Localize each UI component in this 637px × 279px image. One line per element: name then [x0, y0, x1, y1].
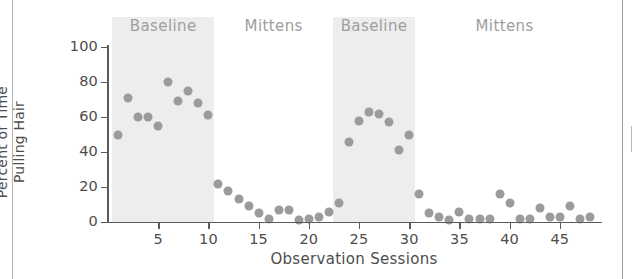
hair-pulling-scatter-chart: 020406080100 51015202530354045 BaselineM… — [0, 0, 637, 279]
y-tick — [101, 47, 108, 48]
data-point — [375, 109, 384, 118]
x-tick-label: 40 — [500, 231, 519, 247]
data-point — [124, 93, 133, 102]
data-point — [184, 86, 193, 95]
x-axis-label: Observation Sessions — [108, 250, 600, 268]
data-point — [164, 78, 173, 87]
y-tick-label: 20 — [55, 178, 98, 194]
y-tick-label: 60 — [55, 108, 98, 124]
data-point — [545, 212, 554, 221]
data-point — [204, 111, 213, 120]
x-tick-label: 10 — [199, 231, 218, 247]
phase-label-3: Mittens — [475, 17, 533, 35]
y-tick — [101, 117, 108, 118]
phase-label-0: Baseline — [130, 17, 197, 35]
y-tick-label: 0 — [55, 213, 98, 229]
x-axis-line — [107, 222, 602, 224]
data-point — [344, 137, 353, 146]
phase-band-baseline-0 — [112, 17, 214, 222]
y-axis-line — [107, 45, 109, 223]
data-point — [284, 205, 293, 214]
data-point — [224, 186, 233, 195]
data-point — [244, 202, 253, 211]
data-point — [365, 107, 374, 116]
phase-label-2: Baseline — [341, 17, 408, 35]
phase-label-1: Mittens — [245, 17, 303, 35]
data-point — [234, 195, 243, 204]
data-point — [405, 130, 414, 139]
data-point — [154, 121, 163, 130]
y-tick — [101, 152, 108, 153]
data-point — [505, 198, 514, 207]
data-point — [174, 97, 183, 106]
data-point — [294, 216, 303, 225]
x-tick — [459, 222, 460, 229]
data-point — [585, 212, 594, 221]
x-tick — [158, 222, 159, 229]
y-tick — [101, 187, 108, 188]
x-tick-label: 15 — [249, 231, 268, 247]
x-tick — [560, 222, 561, 229]
data-point — [445, 216, 454, 225]
data-point — [144, 113, 153, 122]
data-point — [495, 190, 504, 199]
y-tick — [101, 82, 108, 83]
data-point — [425, 209, 434, 218]
data-point — [214, 179, 223, 188]
data-point — [355, 116, 364, 125]
phase-band-baseline-2 — [333, 17, 415, 222]
data-point — [134, 113, 143, 122]
x-tick — [259, 222, 260, 229]
data-point — [385, 118, 394, 127]
x-tick-label: 20 — [299, 231, 318, 247]
y-axis-label: Percent of Time Pulling Hair — [0, 52, 28, 232]
data-point — [415, 190, 424, 199]
y-tick — [101, 222, 108, 223]
x-tick-label: 35 — [450, 231, 469, 247]
y-tick-label: 80 — [55, 73, 98, 89]
data-point — [324, 207, 333, 216]
x-tick-label: 5 — [153, 231, 162, 247]
x-tick-label: 25 — [350, 231, 369, 247]
y-axis-label-line1: Percent of Time — [0, 52, 11, 232]
x-tick-label: 45 — [550, 231, 569, 247]
y-tick-label: 100 — [55, 38, 98, 54]
x-tick — [409, 222, 410, 229]
data-point — [254, 209, 263, 218]
data-point — [565, 202, 574, 211]
x-tick-label: 30 — [400, 231, 419, 247]
data-point — [455, 207, 464, 216]
data-point — [435, 212, 444, 221]
plot-area — [108, 47, 600, 222]
data-point — [395, 146, 404, 155]
data-point — [314, 212, 323, 221]
data-point — [535, 204, 544, 213]
x-tick — [208, 222, 209, 229]
data-point — [194, 99, 203, 108]
x-tick — [309, 222, 310, 229]
y-axis-label-line2: Pulling Hair — [11, 52, 28, 232]
data-point — [274, 205, 283, 214]
y-tick-label: 40 — [55, 143, 98, 159]
x-tick — [510, 222, 511, 229]
x-tick — [359, 222, 360, 229]
data-point — [114, 130, 123, 139]
data-point — [555, 212, 564, 221]
data-point — [334, 198, 343, 207]
